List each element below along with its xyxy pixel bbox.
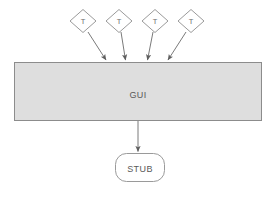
stub-node-label: STUB (127, 164, 153, 174)
test-node-3-arrow (148, 32, 154, 60)
test-node-3: T (142, 10, 168, 61)
test-node-1-label: T (81, 17, 86, 26)
test-node-4-label: T (189, 17, 194, 26)
stub-node: STUB (116, 154, 165, 182)
test-node-2: T (106, 10, 132, 61)
test-node-1: T (70, 10, 106, 61)
test-node-3-label: T (153, 17, 158, 26)
gui-box-label: GUI (129, 90, 146, 100)
test-node-4: T (168, 10, 204, 61)
test-node-2-label: T (117, 17, 122, 26)
diagram-canvas: GUI STUB T T T T (0, 0, 277, 198)
test-node-4-arrow (168, 32, 186, 60)
test-node-1-arrow (88, 32, 106, 60)
gui-box: GUI (15, 63, 262, 121)
diagram-svg: GUI STUB T T T T (0, 0, 277, 198)
test-node-2-arrow (121, 32, 126, 60)
